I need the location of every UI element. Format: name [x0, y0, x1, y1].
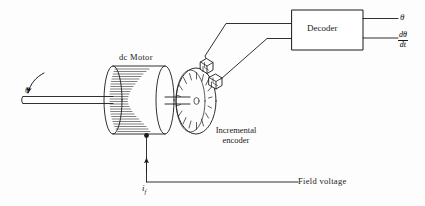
encoder-label: Incremental encoder — [205, 126, 267, 146]
encoder-label-line1: Incremental — [216, 125, 257, 135]
motor-hatching — [110, 69, 150, 132]
field-current-subscript: f — [145, 188, 147, 195]
field-voltage-label: Field voltage — [298, 176, 347, 186]
figure-canvas: dc Motor Decoder Incremental encoder Fie… — [0, 0, 425, 206]
output-rate-numerator: dθ — [398, 31, 408, 39]
shaft-angle-label: θ — [25, 85, 29, 95]
sensor-wire-lower — [221, 39, 292, 80]
motor-encoder-diagram — [0, 0, 425, 206]
output-shaft — [22, 97, 113, 104]
motor-label: dc Motor — [119, 52, 153, 62]
field-current-label: if — [142, 183, 146, 195]
encoder-label-line2: encoder — [223, 135, 250, 145]
rotation-arrow-icon — [28, 73, 44, 93]
upper-optical-sensor-icon — [201, 59, 214, 74]
encoder-coupling-shaft — [165, 97, 190, 104]
output-rate-denominator: dt — [398, 41, 408, 49]
field-connection-node — [144, 133, 149, 138]
dc-motor-body — [104, 66, 174, 134]
sensor-wire-upper — [205, 24, 292, 59]
output-angle-label: θ — [400, 12, 404, 22]
decoder-label: Decoder — [307, 23, 337, 33]
output-rate-label: dθ dt — [398, 31, 408, 50]
lower-optical-sensor-icon — [209, 74, 222, 89]
